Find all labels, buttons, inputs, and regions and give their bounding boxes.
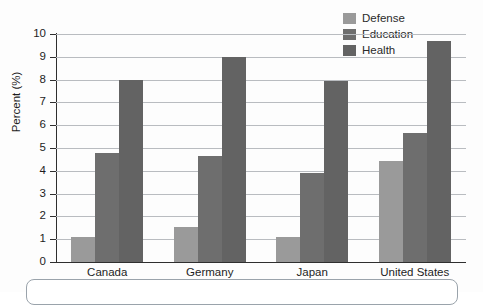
x-tick-label: Japan bbox=[261, 266, 364, 278]
y-tick-label: 4 bbox=[24, 164, 46, 176]
y-tick-mark bbox=[50, 239, 56, 240]
y-tick-mark bbox=[50, 262, 56, 263]
plot-area: CanadaGermanyJapanUnited States bbox=[56, 34, 466, 262]
bar-health-canada bbox=[119, 80, 143, 262]
legend-item-defense: Defense bbox=[343, 11, 463, 26]
bar-health-japan bbox=[324, 81, 348, 262]
bar-health-germany bbox=[222, 57, 246, 262]
y-tick-label: 10 bbox=[24, 27, 46, 39]
legend-label-defense: Defense bbox=[362, 13, 405, 24]
bar-defense-japan bbox=[276, 237, 300, 262]
bar-defense-canada bbox=[71, 237, 95, 262]
y-tick-mark bbox=[50, 194, 56, 195]
bar-group: Germany bbox=[159, 34, 262, 262]
y-tick-mark bbox=[50, 34, 56, 35]
bar-group-bars bbox=[56, 34, 159, 262]
y-tick-mark bbox=[50, 148, 56, 149]
y-tick-mark bbox=[50, 216, 56, 217]
y-tick-label: 2 bbox=[24, 209, 46, 221]
bar-group: Japan bbox=[261, 34, 364, 262]
bar-defense-united-states bbox=[379, 161, 403, 262]
y-tick-label: 3 bbox=[24, 187, 46, 199]
y-tick-label: 6 bbox=[24, 118, 46, 130]
y-axis-tick-labels: 109876543210 bbox=[20, 34, 46, 262]
x-axis-line bbox=[56, 262, 466, 263]
bar-group: United States bbox=[364, 34, 467, 262]
y-tick-label: 1 bbox=[24, 232, 46, 244]
y-tick-mark bbox=[50, 102, 56, 103]
y-tick-label: 5 bbox=[24, 141, 46, 153]
x-tick-label: Germany bbox=[159, 266, 262, 278]
bar-group-bars bbox=[261, 34, 364, 262]
y-tick-mark bbox=[50, 125, 56, 126]
bar-education-germany bbox=[198, 156, 222, 262]
bar-defense-germany bbox=[174, 227, 198, 262]
y-tick-label: 8 bbox=[24, 73, 46, 85]
x-tick-label: Canada bbox=[56, 266, 159, 278]
bar-group-bars bbox=[159, 34, 262, 262]
bar-health-united-states bbox=[427, 41, 451, 262]
y-tick-mark bbox=[50, 57, 56, 58]
bar-education-japan bbox=[300, 173, 324, 262]
legend-swatch-defense bbox=[343, 13, 356, 24]
bar-group-bars bbox=[364, 34, 467, 262]
caption-box bbox=[26, 279, 458, 305]
y-tick-label: 9 bbox=[24, 50, 46, 62]
y-tick-mark bbox=[50, 171, 56, 172]
bar-education-canada bbox=[95, 153, 119, 262]
y-tick-label: 0 bbox=[24, 255, 46, 267]
y-tick-mark bbox=[50, 80, 56, 81]
y-tick-label: 7 bbox=[24, 95, 46, 107]
bar-groups: CanadaGermanyJapanUnited States bbox=[56, 34, 466, 262]
x-tick-label: United States bbox=[364, 266, 467, 278]
bar-group: Canada bbox=[56, 34, 159, 262]
bar-education-united-states bbox=[403, 133, 427, 262]
